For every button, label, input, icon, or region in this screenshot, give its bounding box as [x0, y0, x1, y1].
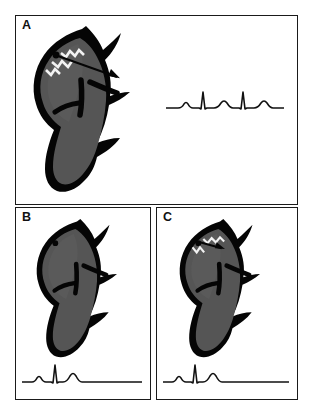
ecg-trace-b: [22, 356, 142, 390]
ecg-trace-c: [163, 356, 289, 390]
ecg-waveform-a: [166, 92, 284, 109]
panel-b: B: [15, 207, 151, 400]
focus-dot-b: [53, 240, 59, 246]
ecg-waveform-c: [163, 365, 289, 383]
panel-label-b: B: [22, 211, 31, 224]
panel-label-c: C: [163, 211, 172, 224]
panel-a: A: [15, 15, 298, 205]
heart-diagram-a: [24, 20, 164, 200]
ecg-trace-a: [166, 82, 284, 116]
ecg-waveform-b: [22, 365, 142, 383]
heart-diagram-b: [22, 214, 152, 364]
figure-canvas: A B: [0, 0, 310, 414]
panel-label-a: A: [22, 19, 31, 32]
coronary-vessel-mid-a: [80, 80, 82, 115]
heart-diagram-c: [165, 214, 295, 364]
coronary-vessel-mid-b: [75, 264, 76, 293]
panel-c: C: [156, 207, 298, 400]
coronary-vessel-mid-c: [218, 264, 219, 293]
focus-dot-a: [53, 52, 60, 59]
